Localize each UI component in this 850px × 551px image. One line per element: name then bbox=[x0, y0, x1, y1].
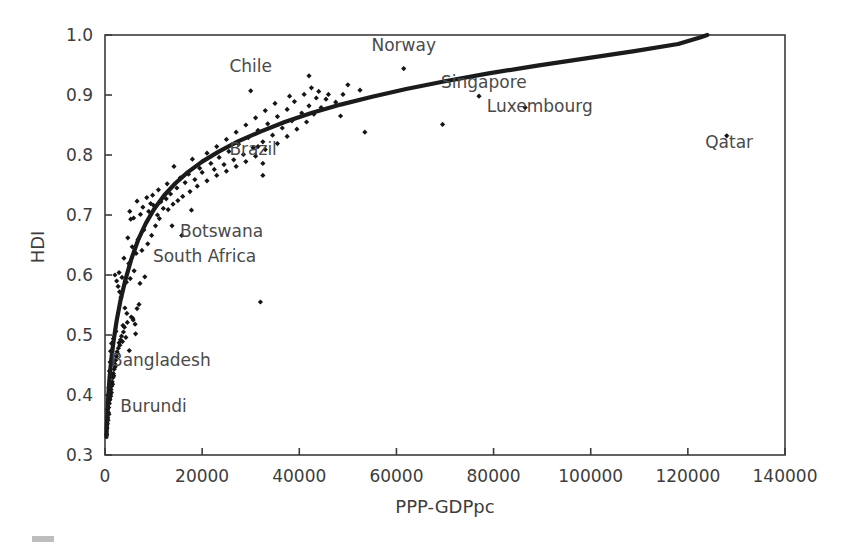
chart-canvas: 020000400006000080000100000120000140000 … bbox=[0, 0, 850, 551]
annotation-botswana: Botswana bbox=[180, 221, 263, 241]
y-tick-label: 0.9 bbox=[66, 85, 93, 105]
data-point bbox=[345, 82, 350, 87]
data-point bbox=[224, 169, 229, 174]
data-point bbox=[144, 195, 149, 200]
data-point bbox=[166, 207, 171, 212]
y-tick-label: 0.6 bbox=[66, 265, 93, 285]
y-axis-title: HDI bbox=[27, 231, 48, 264]
data-point bbox=[204, 151, 209, 156]
data-point bbox=[323, 97, 328, 102]
y-tick-label: 1.0 bbox=[66, 25, 93, 45]
annotation-brazil: Brazil bbox=[229, 139, 276, 159]
annotation-singapore: Singapore bbox=[441, 72, 527, 92]
data-point bbox=[260, 173, 265, 178]
data-point bbox=[214, 173, 219, 178]
data-point bbox=[189, 208, 194, 213]
data-point bbox=[340, 92, 345, 97]
data-point bbox=[192, 177, 197, 182]
data-point bbox=[124, 311, 129, 316]
point-annotations: ChileNorwaySingaporeLuxembourgQatarBrazi… bbox=[111, 35, 753, 416]
data-point bbox=[294, 127, 299, 132]
data-point bbox=[316, 89, 321, 94]
data-point bbox=[145, 241, 150, 246]
data-point bbox=[204, 178, 209, 183]
y-tick-label: 0.7 bbox=[66, 205, 93, 225]
data-point bbox=[260, 161, 265, 166]
data-point bbox=[153, 223, 158, 228]
data-point bbox=[234, 164, 239, 169]
data-point bbox=[114, 278, 119, 283]
data-point bbox=[224, 137, 229, 142]
data-point bbox=[212, 167, 217, 172]
y-tick-label: 0.5 bbox=[66, 325, 93, 345]
data-point bbox=[112, 272, 117, 277]
data-point bbox=[170, 202, 175, 207]
data-point bbox=[270, 133, 275, 138]
data-point bbox=[214, 144, 219, 149]
data-point bbox=[138, 212, 143, 217]
data-point bbox=[149, 233, 154, 238]
x-tick-label: 140000 bbox=[753, 466, 818, 486]
data-point bbox=[314, 95, 319, 100]
data-point bbox=[116, 270, 121, 275]
data-point bbox=[362, 130, 367, 135]
x-tick-label: 100000 bbox=[558, 466, 623, 486]
x-axis-title: PPP-GDPpc bbox=[395, 496, 494, 517]
data-point bbox=[401, 66, 406, 71]
data-point bbox=[253, 115, 258, 120]
x-tick-label: 80000 bbox=[467, 466, 521, 486]
data-point bbox=[221, 162, 226, 167]
data-point bbox=[180, 194, 185, 199]
data-point bbox=[265, 121, 270, 126]
x-tick-labels: 020000400006000080000100000120000140000 bbox=[100, 466, 818, 486]
data-point bbox=[134, 199, 139, 204]
annotation-south-africa: South Africa bbox=[153, 246, 256, 266]
data-point bbox=[190, 157, 195, 162]
data-point bbox=[121, 256, 126, 261]
corner-smudge bbox=[32, 536, 54, 542]
data-point bbox=[309, 85, 314, 90]
data-point bbox=[243, 159, 248, 164]
y-tick-label: 0.4 bbox=[66, 385, 93, 405]
data-point bbox=[440, 122, 445, 127]
data-point bbox=[248, 88, 253, 93]
data-point bbox=[338, 113, 343, 118]
x-tick-label: 120000 bbox=[655, 466, 720, 486]
x-tick-marks bbox=[105, 448, 785, 455]
data-point bbox=[217, 155, 222, 160]
y-tick-labels: 0.30.40.50.60.70.80.91.0 bbox=[66, 25, 93, 465]
data-point bbox=[142, 274, 147, 279]
data-point bbox=[243, 122, 248, 127]
data-point bbox=[137, 281, 142, 286]
data-point bbox=[326, 92, 331, 97]
x-tick-label: 0 bbox=[100, 466, 111, 486]
x-tick-label: 60000 bbox=[369, 466, 423, 486]
annotation-qatar: Qatar bbox=[705, 132, 753, 152]
data-point bbox=[306, 73, 311, 78]
data-point bbox=[208, 161, 213, 166]
data-point bbox=[125, 320, 130, 325]
data-point bbox=[275, 114, 280, 119]
data-point bbox=[285, 134, 290, 139]
data-point bbox=[187, 189, 192, 194]
data-point bbox=[304, 119, 309, 124]
annotation-norway: Norway bbox=[371, 35, 436, 55]
data-point bbox=[133, 331, 138, 336]
data-point bbox=[132, 268, 137, 273]
y-tick-label: 0.3 bbox=[66, 445, 93, 465]
data-point bbox=[125, 235, 130, 240]
data-point bbox=[140, 205, 145, 210]
x-tick-label: 20000 bbox=[175, 466, 229, 486]
data-point bbox=[306, 103, 311, 108]
data-point bbox=[287, 94, 292, 99]
data-point bbox=[161, 206, 166, 211]
data-point bbox=[234, 130, 239, 135]
annotation-burundi: Burundi bbox=[120, 396, 187, 416]
data-point bbox=[116, 284, 121, 289]
data-point bbox=[122, 305, 127, 310]
data-point bbox=[171, 164, 176, 169]
data-point bbox=[263, 108, 268, 113]
data-point bbox=[175, 198, 180, 203]
y-tick-label: 0.8 bbox=[66, 145, 93, 165]
data-point bbox=[357, 88, 362, 93]
